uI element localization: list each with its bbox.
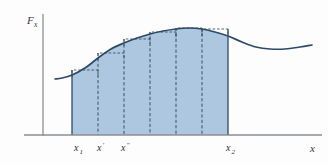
- tick-label-main: x: [96, 142, 102, 153]
- y-axis-label-sub: x: [33, 20, 38, 29]
- x-tick-labels: x1x′x″x2: [73, 141, 236, 156]
- y-axis-label-main: F: [26, 14, 34, 26]
- tick-label-sub: 2: [232, 148, 236, 156]
- tick-label-x-prime: x′: [96, 141, 105, 153]
- tick-label-x2: x2: [225, 142, 236, 156]
- tick-label-main: x: [120, 142, 126, 153]
- shaded-area-under-curve: [62, 28, 242, 135]
- x-axis-label: x: [309, 142, 315, 154]
- figure-canvas: F x x x1x′x″x2: [0, 0, 328, 164]
- tick-label-sub: 1: [80, 148, 84, 156]
- tick-label-sub: ′: [103, 141, 105, 149]
- tick-label-x-double-prime: x″: [120, 141, 130, 153]
- tick-label-sub: ″: [127, 141, 130, 149]
- y-axis-label: F x: [26, 14, 38, 29]
- tick-label-x1: x1: [73, 142, 83, 156]
- tick-label-main: x: [73, 142, 79, 153]
- tick-label-main: x: [225, 142, 231, 153]
- work-integral-figure: F x x x1x′x″x2: [0, 0, 328, 164]
